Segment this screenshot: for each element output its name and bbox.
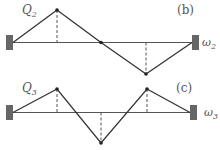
label-q2: Q2 <box>22 3 37 19</box>
mode-shapes-diagram: Q2 (b) ω2 Q3 (c) ω3 <box>0 0 220 150</box>
right-fixed-wall-c <box>190 105 197 120</box>
mass-point-c2 <box>99 141 103 145</box>
mass-point-c3 <box>145 87 149 91</box>
tag-b: (b) <box>177 3 194 17</box>
mode-shape-b: Q2 (b) ω2 <box>6 3 216 76</box>
mass-point-b2 <box>144 72 148 76</box>
left-fixed-wall-b <box>6 35 13 50</box>
left-fixed-wall-c <box>6 105 13 120</box>
label-omega3: ω3 <box>204 106 218 121</box>
tag-c: (c) <box>176 81 192 95</box>
label-q3: Q3 <box>22 81 37 97</box>
node-point-b <box>99 41 103 45</box>
label-omega2: ω2 <box>202 36 216 51</box>
mass-point-b1 <box>55 8 59 12</box>
right-fixed-wall-b <box>192 35 199 50</box>
mass-point-c1 <box>55 87 59 91</box>
mode-shape-c: Q3 (c) ω3 <box>6 81 218 145</box>
